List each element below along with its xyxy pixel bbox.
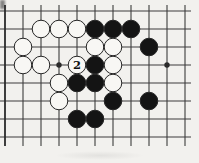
black-stone bbox=[104, 20, 122, 38]
white-stone-circle bbox=[68, 20, 86, 38]
white-stone-circle bbox=[32, 56, 50, 74]
white-stone bbox=[86, 38, 104, 56]
white-stone-circle bbox=[86, 38, 104, 56]
black-stone bbox=[86, 74, 104, 92]
black-stone bbox=[122, 20, 140, 38]
black-stone-circle bbox=[68, 110, 86, 128]
black-stone bbox=[68, 110, 86, 128]
white-stone bbox=[50, 92, 68, 110]
white-stone bbox=[104, 38, 122, 56]
black-stone-circle bbox=[86, 110, 104, 128]
white-stone-circle bbox=[104, 74, 122, 92]
white-stone bbox=[68, 20, 86, 38]
white-stone: 2 bbox=[68, 56, 86, 74]
black-stone-circle bbox=[104, 92, 122, 110]
black-stone bbox=[140, 38, 158, 56]
star-point bbox=[164, 62, 169, 67]
black-stone-circle bbox=[122, 20, 140, 38]
black-stone bbox=[86, 56, 104, 74]
white-stone-circle bbox=[104, 38, 122, 56]
white-stone bbox=[14, 38, 32, 56]
black-stone-circle bbox=[140, 38, 158, 56]
white-stone-circle bbox=[50, 20, 68, 38]
white-stone-circle bbox=[32, 20, 50, 38]
white-stone bbox=[50, 74, 68, 92]
black-stone-circle bbox=[86, 20, 104, 38]
white-stone bbox=[104, 56, 122, 74]
black-stone bbox=[86, 20, 104, 38]
black-stone bbox=[104, 92, 122, 110]
black-stone-circle bbox=[104, 20, 122, 38]
black-stone-circle bbox=[86, 56, 104, 74]
white-stone-circle bbox=[104, 56, 122, 74]
star-point bbox=[56, 62, 61, 67]
black-stone bbox=[140, 92, 158, 110]
white-stone bbox=[50, 20, 68, 38]
white-stone bbox=[14, 56, 32, 74]
black-stone bbox=[68, 74, 86, 92]
white-stone-circle bbox=[50, 92, 68, 110]
go-diagram-scan: 2 bbox=[0, 0, 199, 163]
black-stone bbox=[86, 110, 104, 128]
stones: 2 bbox=[14, 20, 158, 128]
white-stone-circle bbox=[14, 56, 32, 74]
black-stone-circle bbox=[140, 92, 158, 110]
white-stone bbox=[104, 74, 122, 92]
move-number-label: 2 bbox=[73, 58, 81, 72]
black-stone-circle bbox=[86, 74, 104, 92]
white-stone bbox=[32, 20, 50, 38]
white-stone bbox=[32, 56, 50, 74]
go-board: 2 bbox=[0, 0, 199, 163]
black-stone-circle bbox=[68, 74, 86, 92]
white-stone-circle bbox=[50, 74, 68, 92]
white-stone-circle bbox=[14, 38, 32, 56]
